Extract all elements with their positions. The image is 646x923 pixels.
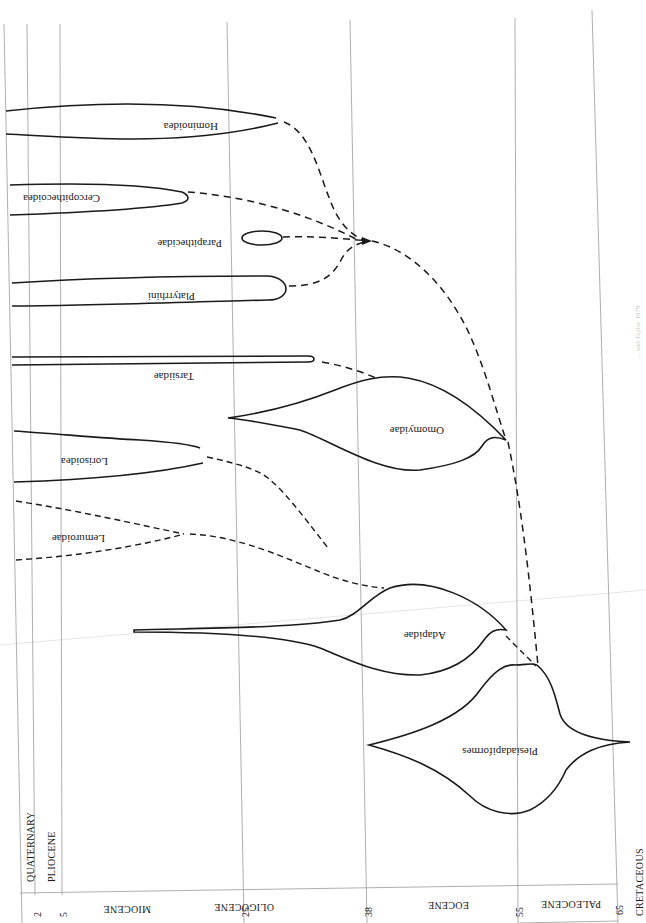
hominoidea-shape	[6, 104, 278, 139]
grid-line-0	[4, 24, 22, 923]
label-quaternary: QUATERNARY	[25, 812, 36, 882]
lemuroidae-branch	[190, 534, 384, 588]
grid-line-25	[227, 22, 244, 923]
tick-65: 65	[614, 905, 625, 915]
label-pliocene: PLIOCENE	[46, 831, 57, 882]
time-axis-band	[20, 884, 618, 923]
faint-caption: … and Taylor 1979	[634, 305, 642, 360]
primate-phylogeny-diagram: Hominoidea Cercopithecoidea Parapithecid…	[0, 0, 646, 923]
tarsiidae-shape	[12, 356, 314, 365]
tarsiidae-branch	[322, 362, 376, 378]
adapidae-to-plesiadapiformes-branch	[506, 636, 536, 666]
label-parapithecidae: Parapithecidae	[157, 238, 222, 250]
grid-line-55	[515, 18, 518, 923]
label-paleocene: PALEOCENE	[541, 899, 601, 910]
tick-5: 5	[58, 912, 69, 917]
omomyidae-to-plesiadapiformes-branch	[508, 442, 538, 666]
platyrrhini-branch	[289, 241, 368, 286]
lorisoidea-branch	[207, 457, 328, 548]
grid-line-38	[350, 20, 367, 923]
page-fold-line	[0, 590, 646, 645]
omomyidae-shape	[228, 377, 506, 471]
label-adapidae: Adapidae	[404, 630, 446, 642]
tick-2: 2	[32, 912, 43, 917]
label-miocene: MIOCENE	[103, 904, 151, 915]
label-tarsiidae: Tarsiidae	[154, 371, 194, 383]
label-hominoidea: Hominoidea	[164, 121, 218, 133]
grid-line-2	[27, 24, 35, 895]
label-lemuroidae: Lemuroidae	[52, 533, 105, 545]
label-cercopithecoidea: Cercopithecoidea	[23, 193, 100, 205]
plesiadapiformes-shape	[369, 664, 630, 814]
axis-top-rule	[20, 884, 618, 893]
label-omomyidae: Omomyidae	[390, 425, 444, 437]
epoch-labels: MIOCENE OLIGOCENE EOCENE PALEOCENE	[103, 899, 601, 915]
grid-line-65	[592, 10, 618, 923]
label-platyrrhini: Platyrrhini	[148, 291, 195, 303]
parapithecidae-shape	[242, 231, 282, 245]
adapidae-shape	[134, 584, 506, 675]
label-lorisoidea: Lorisoidea	[61, 456, 108, 468]
label-plesiadapiformes: Plesiadapiformes	[462, 746, 538, 758]
tick-55: 55	[514, 907, 525, 917]
lemuroidae-shape	[16, 501, 184, 560]
junction-arrowhead	[362, 237, 372, 245]
label-eocene: EOCENE	[428, 900, 469, 911]
anthropoid-trunk-branch	[372, 241, 506, 440]
tick-38: 38	[363, 907, 374, 917]
label-cretaceous: CRETACEOUS	[634, 848, 645, 916]
tick-25: 25	[240, 907, 251, 917]
